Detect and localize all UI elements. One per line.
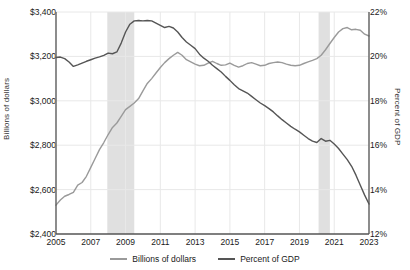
legend-label: Billions of dollars xyxy=(132,254,196,264)
chart-legend: Billions of dollarsPercent of GDP xyxy=(0,251,410,267)
legend-swatch-icon xyxy=(110,258,127,260)
recession-bands xyxy=(107,12,330,234)
chart-container: Billions of dollars Percent of GDP $2,40… xyxy=(0,0,410,270)
plot-area xyxy=(0,0,410,270)
legend-label: Percent of GDP xyxy=(240,254,300,264)
legend-item[interactable]: Billions of dollars xyxy=(110,254,196,264)
legend-item[interactable]: Percent of GDP xyxy=(218,254,300,264)
legend-swatch-icon xyxy=(218,258,235,260)
